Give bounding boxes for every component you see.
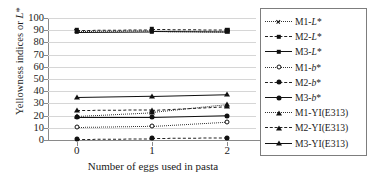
legend-label: M1-b* (295, 62, 321, 73)
legend-item-m3-yi-e313[interactable]: M3-YI(E313) (265, 136, 363, 151)
series-m3-yi-e313 (48, 18, 256, 140)
triangle-marker-icon (276, 125, 282, 130)
legend-key-marker (276, 110, 282, 115)
legend-item-m2-yi-e313[interactable]: M2-YI(E313) (265, 120, 363, 135)
legend-key (265, 92, 292, 103)
y-tick-label: 30 (18, 98, 44, 108)
legend-label: M3-YI(E313) (295, 138, 348, 149)
series-segment (77, 96, 152, 98)
y-tick-label: 10 (18, 123, 44, 133)
legend-key (265, 46, 292, 57)
y-tick-label: 90 (18, 25, 44, 35)
legend-key (265, 77, 292, 88)
square-marker-icon (276, 50, 280, 54)
y-tick-label: 40 (18, 86, 44, 96)
x-axis-line (48, 140, 263, 141)
y-tick-label: 100 (18, 13, 44, 23)
data-point (74, 95, 80, 100)
legend-key-marker (276, 141, 282, 146)
circle-filled-marker-icon (276, 95, 281, 100)
y-tick-label: 0 (18, 135, 44, 145)
legend-key-marker (276, 19, 281, 24)
legend-item-m1-yi-e313[interactable]: M1-YI(E313) (265, 105, 363, 120)
data-point (224, 92, 230, 97)
legend-item-m3-l[interactable]: M3-L* (265, 44, 363, 59)
legend-item-m2-l[interactable]: M2-L* (265, 29, 363, 44)
legend-key-marker (276, 125, 282, 130)
legend-item-m3-b[interactable]: M3-b* (265, 90, 363, 105)
x-axis-ticks: 012 (48, 142, 256, 160)
y-tick-label: 50 (18, 74, 44, 84)
line-chart: Yellowness indices or L* 010203040506070… (0, 0, 371, 185)
legend-key-marker (276, 95, 281, 100)
y-tick-label: 80 (18, 37, 44, 47)
x-marker-icon (276, 19, 281, 24)
legend-key-marker (276, 80, 281, 85)
series-segment (152, 94, 227, 97)
square-marker-icon (276, 35, 280, 39)
triangle-marker-icon (224, 92, 230, 97)
legend-label: M1-YI(E313) (295, 107, 348, 118)
triangle-marker-icon (149, 94, 155, 99)
y-axis-title-star: * (14, 7, 25, 12)
legend-key-marker (276, 50, 280, 54)
legend-key (265, 16, 292, 27)
legend-key-marker (276, 35, 280, 39)
x-tick-mark (227, 142, 228, 146)
legend-item-m2-b[interactable]: M2-b* (265, 75, 363, 90)
y-tick-label: 60 (18, 62, 44, 72)
triangle-marker-icon (276, 110, 282, 115)
y-tick-label: 70 (18, 50, 44, 60)
triangle-marker-icon (74, 95, 80, 100)
series-layer (48, 18, 256, 140)
x-tick-mark (152, 142, 153, 146)
legend-key (265, 107, 292, 118)
legend-key (265, 62, 292, 73)
triangle-marker-icon (276, 141, 282, 146)
legend-label: M3-b* (295, 92, 321, 103)
legend-key (265, 122, 292, 133)
legend-key-marker (276, 65, 281, 70)
legend-label: M3-L* (295, 46, 322, 57)
circle-marker-icon (276, 65, 281, 70)
legend-item-m1-b[interactable]: M1-b* (265, 60, 363, 75)
legend-item-m1-l[interactable]: M1-L* (265, 14, 363, 29)
chart-legend: M1-L*M2-L*M3-L*M1-b*M2-b*M3-b*M1-YI(E313… (260, 8, 367, 156)
legend-key (265, 138, 292, 149)
y-tick-label: 20 (18, 111, 44, 121)
x-tick-mark (77, 142, 78, 146)
circle-filled-marker-icon (276, 80, 281, 85)
x-axis-title: Number of eggs used in pasta (48, 160, 258, 172)
legend-label: M1-L* (295, 16, 322, 27)
data-point (149, 94, 155, 99)
legend-label: M2-YI(E313) (295, 122, 348, 133)
legend-label: M2-b* (295, 77, 321, 88)
legend-label: M2-L* (295, 31, 322, 42)
legend-key (265, 31, 292, 42)
plot-area: 0102030405060708090100 012 (48, 18, 256, 140)
